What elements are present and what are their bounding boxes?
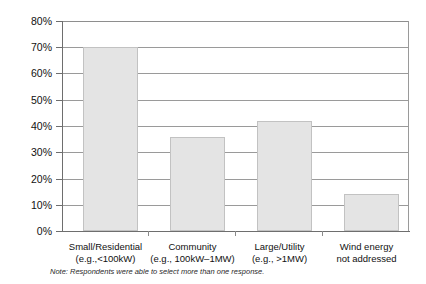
- plot-area: [62, 21, 409, 231]
- y-tick-label-10: 10%: [31, 200, 52, 211]
- y-tick-mark-20: [56, 179, 62, 180]
- category-label-main-2: Large/Utility: [254, 241, 304, 252]
- x-tick-mark-1: [148, 231, 149, 236]
- y-tick-label-70: 70%: [31, 42, 52, 53]
- gridline-80: [62, 21, 409, 22]
- y-tick-label-80: 80%: [31, 16, 52, 27]
- chart-footnote: Note: Respondents were able to select mo…: [50, 267, 264, 276]
- category-label-main-1: Community: [168, 241, 216, 252]
- footnote-text: Respondents were able to select more tha…: [68, 267, 264, 276]
- bar-chart-figure: 80% 70% 60% 50% 40% 30% 20% 10% 0% Small…: [0, 0, 426, 284]
- category-label-wind-not-addressed: Wind energy not addressed: [323, 241, 410, 264]
- bar-small-residential: [83, 47, 138, 231]
- y-tick-mark-0: [56, 231, 62, 232]
- x-tick-mark-2: [235, 231, 236, 236]
- plot-right-border: [408, 21, 409, 231]
- category-label-sub-1: (e.g., 100kW–1MW): [149, 253, 236, 265]
- y-axis-line: [62, 21, 63, 232]
- category-label-community: Community (e.g., 100kW–1MW): [149, 241, 236, 264]
- y-tick-mark-10: [56, 205, 62, 206]
- y-tick-mark-40: [56, 126, 62, 127]
- y-tick-label-50: 50%: [31, 95, 52, 106]
- y-tick-label-40: 40%: [31, 121, 52, 132]
- y-tick-label-20: 20%: [31, 174, 52, 185]
- bar-community: [170, 137, 225, 232]
- category-label-sub-3: not addressed: [323, 253, 410, 265]
- category-label-large-utility: Large/Utility (e.g., >1MW): [236, 241, 323, 264]
- category-label-sub-0: (e.g.,<100kW): [62, 253, 149, 265]
- y-tick-label-30: 30%: [31, 147, 52, 158]
- x-tick-mark-3: [322, 231, 323, 236]
- bar-wind-not-addressed: [344, 194, 399, 231]
- y-tick-label-60: 60%: [31, 68, 52, 79]
- category-label-small-residential: Small/Residential (e.g.,<100kW): [62, 241, 149, 264]
- y-tick-mark-30: [56, 152, 62, 153]
- y-tick-mark-50: [56, 100, 62, 101]
- category-label-main-3: Wind energy: [340, 241, 393, 252]
- category-label-main-0: Small/Residential: [69, 241, 142, 252]
- x-axis-line: [62, 231, 410, 232]
- category-label-sub-2: (e.g., >1MW): [236, 253, 323, 265]
- bar-large-utility: [257, 121, 312, 231]
- y-tick-mark-70: [56, 47, 62, 48]
- y-tick-label-0: 0%: [37, 226, 52, 237]
- y-tick-mark-60: [56, 73, 62, 74]
- footnote-label: Note:: [50, 267, 68, 276]
- y-tick-mark-80: [56, 21, 62, 22]
